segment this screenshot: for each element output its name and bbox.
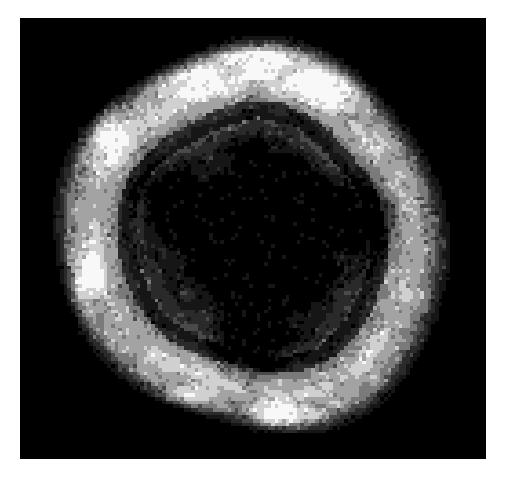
brain-scan-canvas bbox=[20, 18, 486, 459]
page-root: grayscale posterized axial brain slice bbox=[0, 0, 507, 478]
scan-image-frame bbox=[20, 18, 486, 459]
